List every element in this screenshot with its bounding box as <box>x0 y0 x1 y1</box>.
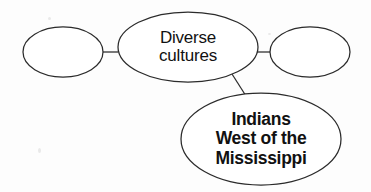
concept-map-graphic <box>0 0 371 192</box>
empty-oval-left[interactable] <box>23 27 103 77</box>
empty-oval-right[interactable] <box>270 27 350 77</box>
scan-speck-b <box>268 33 271 35</box>
scan-speck-c <box>38 148 41 153</box>
diverse-cultures-oval[interactable] <box>118 12 258 82</box>
indians-west-of-the-mississippi-oval[interactable] <box>181 93 341 185</box>
connector-center-to-bottom <box>232 74 246 96</box>
scan-speck-a <box>48 17 51 20</box>
diagram-canvas: Diverse cultures Indians West of the Mis… <box>0 0 371 192</box>
